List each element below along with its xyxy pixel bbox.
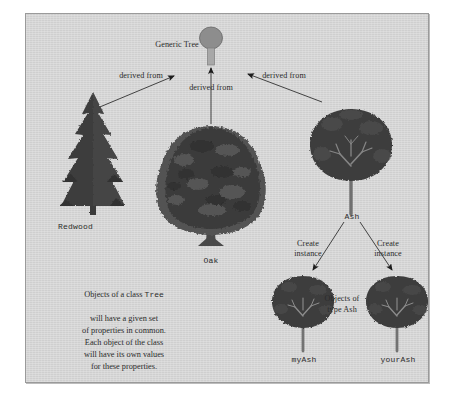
- tree-yourash: [366, 276, 428, 351]
- tree-redwood: [59, 92, 125, 215]
- edge-label-ash-derived-from: derived from: [251, 72, 317, 81]
- explanation-text: Objects of a class Tree will have a give…: [46, 277, 202, 373]
- explanation-line1-pre: Objects of a class: [84, 290, 144, 299]
- class-label-ash: Ash: [322, 213, 382, 222]
- tree-ash: [310, 109, 392, 214]
- instance-label-myash: myAsh: [274, 356, 334, 365]
- class-label-redwood: Redwood: [58, 223, 128, 232]
- edge-label-create-instance-yourash: Create instance: [360, 239, 416, 260]
- edge-label-oak-derived-from: derived from: [178, 84, 244, 93]
- tree-oak: [156, 126, 266, 246]
- diagram-panel: Generic Tree derived from derived from d…: [25, 13, 429, 383]
- explanation-code-tree: Tree: [145, 290, 164, 299]
- instances-note: Objects of type Ash: [314, 294, 370, 315]
- diagram-canvas: Generic Tree derived from derived from d…: [0, 0, 451, 401]
- explanation-rest: will have a given set of properties in c…: [82, 314, 166, 371]
- class-label-oak: Oak: [181, 257, 241, 266]
- instance-label-yourash: yourAsh: [368, 356, 428, 365]
- edge-label-create-instance-myash: Create instance: [280, 239, 336, 260]
- generic-tree-label: Generic Tree: [141, 41, 213, 50]
- edge-label-redwood-derived-from: derived from: [108, 72, 174, 81]
